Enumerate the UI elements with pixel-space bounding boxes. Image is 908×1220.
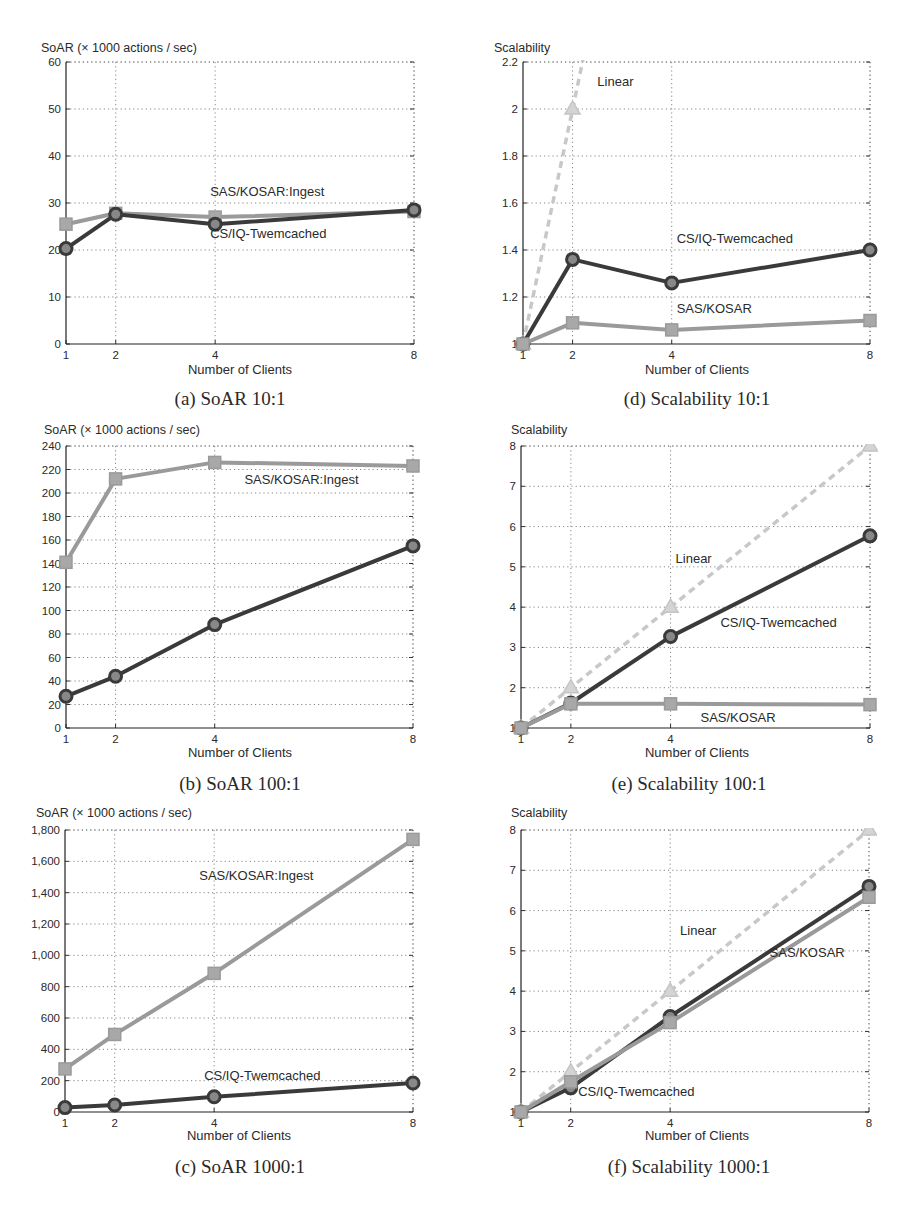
- y-tick-label: 2: [512, 103, 518, 115]
- series-label: CS/IQ-Twemcached: [677, 231, 793, 246]
- triangle-marker-icon: [563, 680, 578, 693]
- y-tick-label: 7: [510, 480, 516, 492]
- square-marker-icon: [863, 891, 875, 903]
- y-tick-label: 0: [55, 338, 61, 350]
- series-label: Linear: [597, 74, 634, 89]
- x-axis-title: Number of Clients: [597, 1128, 797, 1143]
- square-marker-icon: [109, 1028, 121, 1040]
- x-axis-title: Number of Clients: [140, 362, 340, 377]
- y-tick-label: 60: [48, 56, 61, 68]
- y-tick-label: 4: [510, 601, 517, 613]
- x-tick-label: 2: [569, 349, 575, 361]
- x-tick-label: 2: [112, 1117, 118, 1129]
- y-tick-label: 20: [48, 699, 61, 711]
- series-label: SAS/KOSAR:Ingest: [210, 184, 325, 199]
- figure-caption: (f) Scalability 1000:1: [549, 1156, 829, 1178]
- y-tick-label: 6: [510, 905, 516, 917]
- x-tick-label: 2: [113, 349, 119, 361]
- series-sas-kosar: [517, 315, 876, 351]
- x-tick-label: 4: [212, 349, 219, 361]
- series-label: CS/IQ-Twemcached: [578, 1084, 694, 1099]
- circle-marker-icon: [864, 244, 876, 256]
- y-tick-label: 220: [42, 464, 61, 476]
- square-marker-icon: [407, 460, 419, 472]
- circle-marker-icon: [209, 619, 221, 631]
- square-marker-icon: [110, 473, 122, 485]
- x-tick-label: 1: [62, 1117, 68, 1129]
- grid-lines: [66, 446, 413, 728]
- series-cs-iq-twemcached: [60, 540, 419, 702]
- circle-marker-icon: [60, 243, 72, 255]
- circle-marker-icon: [864, 530, 876, 542]
- y-tick-label: 240: [42, 440, 61, 452]
- y-tick-label: 40: [48, 675, 61, 687]
- x-tick-label: 4: [669, 349, 676, 361]
- y-tick-label: 180: [42, 511, 61, 523]
- y-tick-label: 800: [41, 981, 60, 993]
- circle-marker-icon: [407, 1077, 419, 1089]
- circle-marker-icon: [208, 1091, 220, 1103]
- series-label: CS/IQ-Twemcached: [210, 226, 326, 241]
- square-marker-icon: [666, 324, 678, 336]
- x-tick-label: 8: [410, 1117, 416, 1129]
- circle-marker-icon: [567, 253, 579, 265]
- x-tick-label: 8: [411, 349, 417, 361]
- y-tick-label: 200: [42, 487, 61, 499]
- x-axis-title: Number of Clients: [597, 362, 797, 377]
- y-tick-label: 10: [48, 291, 61, 303]
- square-marker-icon: [517, 338, 529, 350]
- y-tick-label: 1.8: [502, 150, 518, 162]
- circle-marker-icon: [59, 1102, 71, 1114]
- x-tick-label: 1: [63, 733, 69, 745]
- triangle-marker-icon: [863, 438, 878, 451]
- square-marker-icon: [60, 556, 72, 568]
- y-tick-label: 1,400: [31, 887, 60, 899]
- y-tick-label: 4: [510, 985, 517, 997]
- y-tick-label: 400: [41, 1043, 60, 1055]
- series-label: SAS/KOSAR: [700, 710, 775, 725]
- y-tick-label: 5: [510, 945, 516, 957]
- circle-marker-icon: [110, 208, 122, 220]
- chart-panel-f: Scalability 123456781248LinearSAS/KOSARC…: [454, 810, 908, 1220]
- x-axis-title: Number of Clients: [139, 1128, 339, 1143]
- square-marker-icon: [665, 698, 677, 710]
- y-tick-label: 30: [48, 197, 61, 209]
- triangle-marker-icon: [862, 822, 877, 835]
- x-tick-label: 1: [63, 349, 69, 361]
- y-tick-label: 5: [510, 561, 516, 573]
- chart-panel-d: Scalability 11.21.41.61.822.21248LinearC…: [454, 0, 908, 410]
- square-marker-icon: [515, 722, 527, 734]
- x-tick-label: 4: [212, 733, 219, 745]
- figure-caption: (d) Scalability 10:1: [557, 388, 837, 410]
- circle-marker-icon: [665, 631, 677, 643]
- figure-caption: (c) SoAR 1000:1: [100, 1156, 380, 1178]
- square-marker-icon: [60, 218, 72, 230]
- y-tick-label: 600: [41, 1012, 60, 1024]
- y-tick-label: 1.2: [502, 291, 518, 303]
- y-tick-label: 8: [510, 824, 516, 836]
- circle-marker-icon: [110, 670, 122, 682]
- square-marker-icon: [864, 315, 876, 327]
- y-tick-label: 3: [510, 641, 516, 653]
- y-tick-label: 1,600: [31, 855, 60, 867]
- y-tick-label: 1,000: [31, 949, 60, 961]
- triangle-marker-icon: [663, 983, 678, 996]
- x-tick-label: 2: [568, 733, 574, 745]
- series-linear: [514, 822, 877, 1117]
- line-chart-a: 01020304050601248SAS/KOSAR:IngestCS/IQ-T…: [0, 0, 454, 410]
- y-tick-label: 1,200: [31, 918, 60, 930]
- x-tick-label: 8: [867, 733, 873, 745]
- series-label: CS/IQ-Twemcached: [720, 615, 836, 630]
- chart-panel-a: SoAR (× 1000 actions / sec) 010203040506…: [0, 0, 454, 410]
- y-tick-label: 140: [42, 558, 61, 570]
- square-marker-icon: [209, 456, 221, 468]
- y-tick-label: 1.6: [502, 197, 518, 209]
- series-label: Linear: [676, 551, 713, 566]
- y-tick-label: 1,800: [31, 824, 60, 836]
- series-label: Linear: [680, 923, 717, 938]
- triangle-marker-icon: [565, 101, 580, 114]
- series-sas-kosar-ingest: [60, 456, 419, 568]
- square-marker-icon: [567, 317, 579, 329]
- square-marker-icon: [59, 1063, 71, 1075]
- x-axis-title: Number of Clients: [597, 745, 797, 760]
